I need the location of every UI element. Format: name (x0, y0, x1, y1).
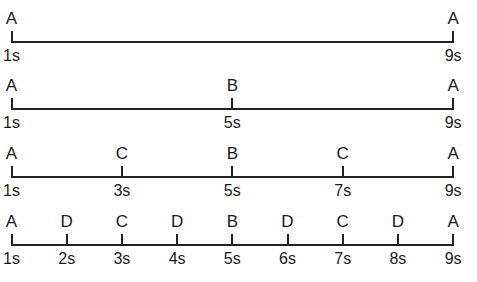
time-label: 2s (58, 251, 75, 267)
tick-mark (452, 166, 454, 177)
event-label: B (227, 77, 238, 94)
time-label: 9s (445, 251, 462, 267)
time-label: 5s (224, 115, 241, 131)
time-label: 7s (334, 183, 351, 199)
timeline-axis-1 (11, 41, 455, 43)
event-label: C (116, 213, 128, 230)
event-label: C (337, 213, 349, 230)
tick-mark (342, 166, 344, 177)
time-label: 9s (445, 48, 462, 64)
tick-mark (397, 234, 399, 245)
tick-mark (452, 31, 454, 42)
event-label: B (227, 213, 238, 230)
event-label: C (337, 145, 349, 162)
tick-mark (11, 166, 13, 177)
tick-mark (11, 31, 13, 42)
tick-mark (231, 166, 233, 177)
tick-mark (66, 234, 68, 245)
event-label: C (116, 145, 128, 162)
time-label: 5s (224, 251, 241, 267)
time-label: 3s (113, 183, 130, 199)
event-label: A (6, 145, 17, 162)
tick-mark (231, 98, 233, 109)
time-label: 8s (389, 251, 406, 267)
event-label: A (6, 10, 17, 27)
event-label: A (6, 77, 17, 94)
time-label: 3s (113, 251, 130, 267)
time-label: 5s (224, 183, 241, 199)
event-label: D (392, 213, 404, 230)
time-label: 1s (3, 115, 20, 131)
tick-mark (176, 234, 178, 245)
time-label: 9s (445, 115, 462, 131)
tick-mark (342, 234, 344, 245)
tick-mark (231, 234, 233, 245)
time-label: 6s (279, 251, 296, 267)
time-label: 1s (3, 183, 20, 199)
event-label: A (447, 10, 458, 27)
time-label: 9s (445, 183, 462, 199)
event-label: A (447, 77, 458, 94)
event-label: B (227, 145, 238, 162)
time-label: 7s (334, 251, 351, 267)
tick-mark (121, 234, 123, 245)
time-label: 4s (169, 251, 186, 267)
event-label: D (281, 213, 293, 230)
event-label: D (171, 213, 183, 230)
event-label: A (6, 213, 17, 230)
tick-mark (287, 234, 289, 245)
event-label: D (61, 213, 73, 230)
tick-mark (452, 98, 454, 109)
tick-mark (121, 166, 123, 177)
tick-mark (11, 234, 13, 245)
time-label: 1s (3, 48, 20, 64)
event-label: A (447, 145, 458, 162)
event-label: A (447, 213, 458, 230)
time-label: 1s (3, 251, 20, 267)
tick-mark (11, 98, 13, 109)
tick-mark (452, 234, 454, 245)
